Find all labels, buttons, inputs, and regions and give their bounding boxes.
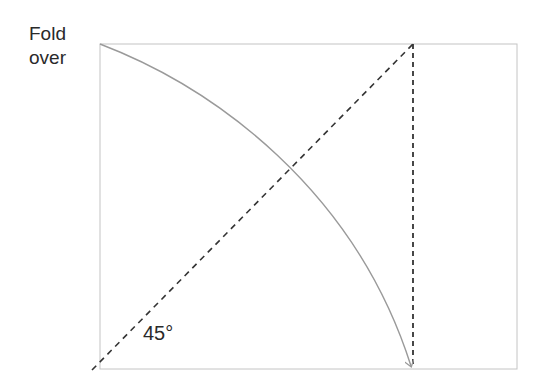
angle-label: 45° [143, 321, 173, 345]
fold-diagram [0, 0, 543, 384]
diagonal-fold-line [92, 44, 413, 370]
